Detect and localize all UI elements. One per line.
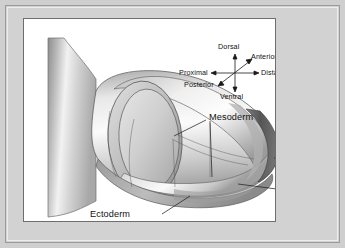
limb-bud-illustration	[24, 19, 276, 222]
figure-root: Dorsal Ventral Proximal Distal Anterior …	[0, 0, 345, 248]
compass-arrow-dorsal	[233, 54, 237, 59]
compass-arrow-distal	[254, 71, 259, 75]
body-wall	[48, 38, 96, 217]
compass-arrow-proximal	[211, 71, 216, 75]
compass-axes	[211, 54, 259, 92]
compass-arrow-ventral	[233, 87, 237, 92]
illustration-panel: Dorsal Ventral Proximal Distal Anterior …	[23, 18, 276, 222]
